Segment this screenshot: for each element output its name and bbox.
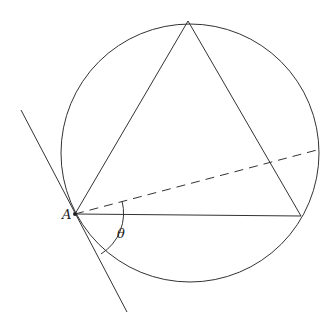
angle-theta-label: θ [117,226,125,241]
inscribed-triangle [75,21,301,216]
geometry-figure: A θ [0,0,330,330]
dashed-line [75,150,317,214]
point-a-dot [73,212,77,216]
circumcircle [61,24,319,282]
tangent-line [21,110,127,312]
diagram-canvas: A θ [0,0,330,330]
point-a-label: A [61,207,71,222]
